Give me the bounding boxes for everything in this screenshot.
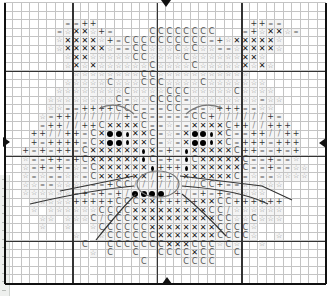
star-icon: ☆ [217, 97, 223, 104]
grid-cell: = [90, 182, 98, 191]
grid-cell [39, 37, 47, 46]
letter-c-icon: C [124, 88, 130, 96]
star-icon: ☆ [276, 97, 282, 104]
star-icon: ☆ [251, 63, 257, 70]
grid-cell: = [30, 156, 38, 165]
grid-cell [22, 224, 30, 233]
grid-cell [47, 37, 55, 46]
grid-cell: = [115, 37, 123, 46]
grid-cell: = [259, 156, 267, 165]
grid-cell [98, 258, 106, 267]
grid-cell: C [123, 37, 131, 46]
star-icon: ☆ [22, 156, 28, 163]
grid-cell [13, 46, 21, 55]
star-icon: ☆ [183, 80, 189, 87]
grid-cell [5, 88, 13, 97]
star-icon: ☆ [191, 80, 197, 87]
grid-cell: + [56, 165, 64, 174]
plus-icon: + [22, 147, 29, 155]
letter-c-icon: C [166, 249, 172, 257]
letter-c-icon: C [192, 258, 198, 266]
small-diamond-icon [126, 132, 129, 137]
star-icon: ☆ [56, 46, 62, 53]
star-icon: ☆ [56, 199, 62, 206]
star-icon: ☆ [99, 97, 105, 104]
grid-cell [301, 54, 309, 63]
grid-cell [47, 250, 55, 259]
grid-cell: = [47, 173, 55, 182]
letter-c-icon: C [209, 258, 215, 266]
equals-icon: = [150, 106, 155, 112]
grid-cell [56, 216, 64, 225]
grid-cell: = [250, 156, 258, 165]
star-icon: ☆ [73, 88, 79, 95]
grid-cell [301, 182, 309, 191]
grid-cell [132, 267, 140, 276]
equals-icon: = [40, 157, 45, 163]
star-icon: ☆ [293, 173, 299, 180]
equals-icon: = [40, 123, 45, 129]
letter-c-icon: C [200, 37, 206, 45]
grid-cell [309, 165, 317, 174]
grid-cell [13, 165, 21, 174]
equals-icon: = [150, 123, 155, 129]
grid-cell [292, 241, 300, 250]
grid-cell: ☆ [22, 190, 30, 199]
grid-cell [284, 46, 292, 55]
grid-cell [301, 88, 309, 97]
grid-cell [56, 3, 64, 12]
grid-cell [22, 37, 30, 46]
small-diamond-icon [185, 157, 188, 162]
letter-c-icon: C [200, 258, 206, 266]
cross-icon: ✕ [234, 37, 241, 45]
grid-cell: / [267, 131, 275, 140]
equals-icon: = [260, 97, 265, 103]
star-icon: ☆ [191, 54, 197, 61]
star-icon: ☆ [259, 216, 265, 223]
letter-c-icon: C [158, 37, 164, 45]
star-icon: ☆ [124, 54, 130, 61]
grid-cell [13, 80, 21, 89]
star-icon: ☆ [234, 241, 240, 248]
grid-cell [309, 54, 317, 63]
equals-icon: = [82, 131, 87, 137]
grid-cell [216, 12, 224, 21]
grid-cell: = [174, 122, 182, 131]
slash-icon: / [269, 130, 272, 138]
star-icon: ☆ [175, 54, 181, 61]
star-icon: ☆ [208, 105, 214, 112]
grid-cell [5, 165, 13, 174]
plus-icon: + [48, 139, 55, 147]
grid-cell [81, 3, 89, 12]
grid-cell [123, 12, 131, 21]
star-icon: ☆ [158, 46, 164, 53]
star-icon: ☆ [251, 80, 257, 87]
grid-cell [39, 71, 47, 80]
slash-icon: / [151, 181, 154, 189]
grid-cell [309, 122, 317, 131]
grid-cell [267, 12, 275, 21]
grid-cell [90, 3, 98, 12]
grid-cell [284, 105, 292, 114]
star-icon: ☆ [208, 71, 214, 78]
grid-cell [47, 12, 55, 21]
grid-cell [22, 199, 30, 208]
grid-cell [292, 258, 300, 267]
filled-dot-icon [116, 140, 122, 146]
grid-cell [267, 258, 275, 267]
star-icon: ☆ [82, 216, 88, 223]
star-icon: ☆ [39, 224, 45, 231]
grid-cell [115, 267, 123, 276]
equals-icon: = [167, 114, 172, 120]
grid-cell: C [123, 88, 131, 97]
grid-cell: + [106, 182, 114, 191]
grid-cell [5, 80, 13, 89]
equals-icon: = [243, 29, 248, 35]
grid-cell: + [267, 165, 275, 174]
equals-icon: = [277, 165, 282, 171]
letter-c-icon: C [150, 96, 156, 104]
grid-cell [132, 258, 140, 267]
grid-cell: ✕ [106, 122, 114, 131]
letter-c-icon: C [158, 79, 164, 87]
grid-cell: ☆ [301, 173, 309, 182]
